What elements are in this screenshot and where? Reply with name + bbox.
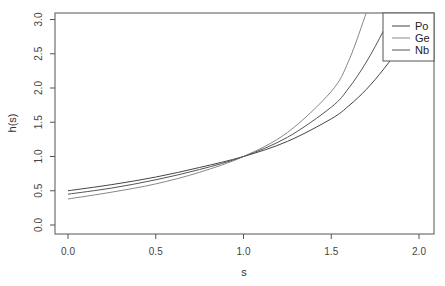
x-tick-label: 0.5 — [149, 246, 163, 257]
y-tick-label: 3.0 — [33, 12, 44, 26]
x-tick-label: 0.0 — [61, 246, 75, 257]
y-tick-label: 2.0 — [33, 81, 44, 95]
series-line-po — [68, 16, 419, 191]
y-tick-label: 2.5 — [33, 46, 44, 60]
y-tick-label: 1.5 — [33, 115, 44, 129]
x-axis-label: s — [241, 266, 247, 278]
series-group — [68, 0, 419, 199]
y-axis-label: h(s) — [6, 114, 18, 133]
y-tick-label: 0.5 — [33, 183, 44, 197]
y-tick-label: 1.0 — [33, 149, 44, 163]
x-tick-label: 1.5 — [324, 246, 338, 257]
x-tick-label: 1.0 — [237, 246, 251, 257]
legend-label-nb: Nb — [415, 44, 429, 56]
series-line-ge — [68, 13, 366, 199]
plot-frame — [55, 13, 434, 234]
x-tick-label: 2.0 — [412, 246, 426, 257]
y-axis: 0.00.51.01.52.02.53.0 — [33, 12, 55, 232]
y-tick-label: 0.0 — [33, 218, 44, 232]
legend-label-po: Po — [415, 20, 428, 32]
chart: 0.00.51.01.52.0 0.00.51.01.52.02.53.0 s … — [0, 0, 445, 286]
legend: Po Ge Nb — [383, 13, 434, 61]
series-line-nb — [68, 0, 401, 194]
x-axis: 0.00.51.01.52.0 — [61, 234, 426, 257]
legend-label-ge: Ge — [415, 32, 430, 44]
